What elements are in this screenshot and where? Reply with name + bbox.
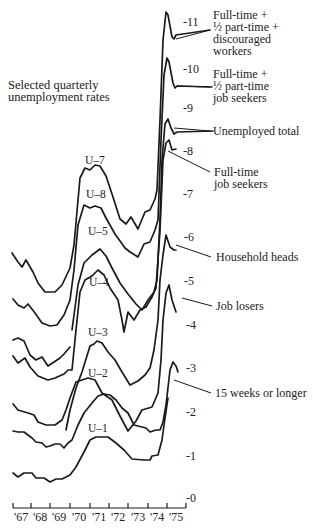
y-tick-4: -4 xyxy=(186,318,196,332)
label-u5: U–5 xyxy=(88,225,108,237)
leader-total xyxy=(174,128,210,131)
y-tick-6: -6 xyxy=(184,230,194,244)
x-tick-68: '68 xyxy=(33,510,47,524)
x-tick-67: '67 xyxy=(14,510,28,524)
label-u7: U–7 xyxy=(85,154,105,166)
legend-l11-4: workers xyxy=(213,44,252,58)
x-tick-73: '73 xyxy=(131,510,145,524)
label-u4: U–4 xyxy=(89,276,109,288)
legend-jl: Job losers xyxy=(216,299,264,313)
y-tick-9: -9 xyxy=(183,101,193,115)
y-tick-1: -1 xyxy=(186,449,196,463)
x-tick-75: '75 xyxy=(169,510,183,524)
x-tick-72: '72 xyxy=(111,510,125,524)
x-axis-ticks xyxy=(13,503,186,508)
x-tick-69: '69 xyxy=(52,510,66,524)
leader-jl xyxy=(182,298,212,306)
legend-l10-3: job seekers xyxy=(212,91,267,105)
label-u2: U–2 xyxy=(88,367,108,379)
series-u1-base-line xyxy=(13,398,168,482)
leader-hh xyxy=(176,245,211,257)
y-tick-0: -0 xyxy=(186,491,196,505)
legend-ftjs-2: job seekers xyxy=(213,177,268,191)
leader-w15 xyxy=(174,380,211,393)
series-u4b-line xyxy=(13,338,70,366)
unemployment-chart: Selected quarterly unemployment rates U–… xyxy=(0,0,313,531)
y-tick-10: -10 xyxy=(183,62,199,76)
label-u8: U–8 xyxy=(86,188,106,200)
y-tick-7: -7 xyxy=(183,187,193,201)
series-u8-line xyxy=(12,12,210,292)
legend-total: Unemployed total xyxy=(213,124,300,138)
chart-title-line-2: unemployment rates xyxy=(8,90,110,104)
y-tick-3: -3 xyxy=(186,361,196,375)
y-tick-8: -8 xyxy=(183,144,193,158)
y-tick-2: -2 xyxy=(186,405,196,419)
x-tick-71: '71 xyxy=(92,510,106,524)
x-tick-70: '70 xyxy=(72,510,86,524)
legend-w15: 15 weeks or longer xyxy=(215,386,307,400)
legend-hh: Household heads xyxy=(216,250,299,264)
x-tick-74: '74 xyxy=(150,510,164,524)
label-u3: U–3 xyxy=(88,326,108,338)
y-tick-5: -5 xyxy=(184,274,194,288)
y-tick-11: -11 xyxy=(183,15,199,29)
series-u3-line xyxy=(66,235,176,430)
label-u1: U–1 xyxy=(88,422,108,434)
